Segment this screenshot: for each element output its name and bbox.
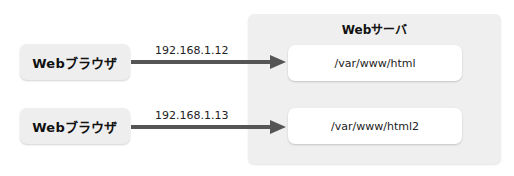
arrow-line: [131, 60, 271, 64]
web-browser-box-2: Webブラウザ: [20, 108, 130, 144]
document-root-path: /var/www/html2: [331, 120, 419, 133]
document-root-path: /var/www/html: [335, 57, 416, 70]
connection-arrow-2: [131, 121, 288, 133]
web-server-box: Webサーバ /var/www/html /var/www/html2: [248, 14, 501, 164]
arrow-head-icon: [270, 120, 286, 134]
web-browser-label: Webブラウザ: [32, 53, 117, 72]
web-browser-box-1: Webブラウザ: [20, 44, 130, 80]
document-root-box-2: /var/www/html2: [288, 108, 462, 144]
arrow-line: [131, 125, 271, 129]
connection-arrow-1: [131, 56, 288, 68]
web-server-title: Webサーバ: [248, 20, 501, 37]
document-root-box-1: /var/www/html: [288, 45, 462, 81]
arrow-head-icon: [270, 55, 286, 69]
web-browser-label: Webブラウザ: [32, 117, 117, 136]
